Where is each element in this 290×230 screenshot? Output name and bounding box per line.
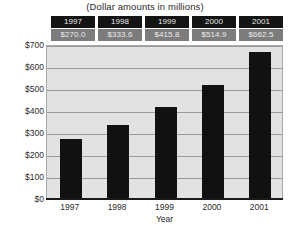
y-tick-label: $300 <box>2 128 44 138</box>
bar-chart-figure: (Dollar amounts in millions) 1997$270.01… <box>0 0 290 230</box>
y-tick-label: $500 <box>2 84 44 94</box>
table-column: 1997$270.0 <box>51 16 95 42</box>
bars-layer <box>47 46 282 198</box>
x-axis-baseline <box>46 198 283 200</box>
y-tick-label: $0 <box>2 194 44 204</box>
bar <box>249 52 271 198</box>
table-value-cell: $514.9 <box>192 29 236 41</box>
y-tick-label: $600 <box>2 62 44 72</box>
table-column: 1998$333.6 <box>98 16 142 42</box>
table-value-cell: $415.8 <box>145 29 189 41</box>
table-header-cell: 1998 <box>98 16 142 28</box>
bar <box>155 107 177 198</box>
table-header-cell: 1999 <box>145 16 189 28</box>
y-tick-label: $200 <box>2 150 44 160</box>
table-column: 1999$415.8 <box>145 16 189 42</box>
table-header-cell: 1997 <box>51 16 95 28</box>
y-tick-label: $100 <box>2 172 44 182</box>
table-header-cell: 2001 <box>239 16 283 28</box>
x-axis-labels: 19971998199920002001 <box>46 202 283 214</box>
plot-area <box>46 45 283 199</box>
x-tick-label: 1999 <box>142 202 188 212</box>
bar <box>202 85 224 198</box>
bar <box>60 139 82 198</box>
y-axis-labels: $0$100$200$300$400$500$600$700 <box>0 45 44 199</box>
x-tick-label: 1998 <box>94 202 140 212</box>
y-tick-label: $700 <box>2 40 44 50</box>
table-header-cell: 2000 <box>192 16 236 28</box>
bar <box>107 125 129 198</box>
x-tick-label: 1997 <box>47 202 93 212</box>
x-tick-label: 2000 <box>189 202 235 212</box>
table-column: 2000$514.9 <box>192 16 236 42</box>
x-axis-title: Year <box>46 214 283 224</box>
x-tick-label: 2001 <box>236 202 282 212</box>
chart-title: (Dollar amounts in millions) <box>0 1 290 12</box>
table-value-cell: $662.5 <box>239 29 283 41</box>
table-value-cell: $333.6 <box>98 29 142 41</box>
table-value-cell: $270.0 <box>51 29 95 41</box>
data-value-table: 1997$270.01998$333.61999$415.82000$514.9… <box>51 16 283 42</box>
y-tick-label: $400 <box>2 106 44 116</box>
table-column: 2001$662.5 <box>239 16 283 42</box>
